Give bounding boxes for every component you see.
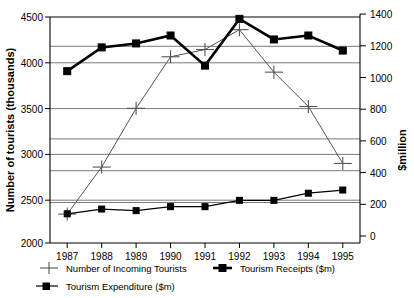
legend-label: Tourism Expenditure ($m) bbox=[66, 281, 175, 292]
legend-label: Tourism Receipts ($m) bbox=[240, 263, 335, 274]
legend-label: Number of Incoming Tourists bbox=[66, 263, 187, 274]
x-tick-label: 1991 bbox=[194, 251, 217, 262]
x-tick-label: 1992 bbox=[228, 251, 251, 262]
y-tick-label: 4500 bbox=[21, 12, 44, 23]
y2-tick-label: 600 bbox=[370, 136, 387, 147]
x-tick-label: 1989 bbox=[125, 251, 148, 262]
legend-item-incoming-tourists: Number of Incoming Tourists bbox=[40, 262, 187, 274]
x-tick-label: 1993 bbox=[263, 251, 286, 262]
legend-item-tourism-expenditure: Tourism Expenditure ($m) bbox=[36, 281, 175, 292]
y2-tick-label: 400 bbox=[370, 168, 387, 179]
y-tick-label: 3000 bbox=[21, 149, 44, 160]
chart-container: 4500 4000 3500 3000 2500 2000 Number of … bbox=[0, 0, 414, 298]
y2-axis-title: $million bbox=[396, 129, 408, 171]
x-axis: 198719881989199019911992199319941995 bbox=[56, 243, 354, 262]
y2-tick-label: 1400 bbox=[370, 9, 393, 20]
x-tick-label: 1994 bbox=[297, 251, 320, 262]
y-axis-title: Number of tourists (thousands) bbox=[4, 47, 16, 212]
legend-item-tourism-receipts: Tourism Receipts ($m) bbox=[213, 263, 335, 274]
y2-tick-label: 200 bbox=[370, 199, 387, 210]
y-tick-label: 2000 bbox=[21, 238, 44, 249]
y2-tick-label: 1200 bbox=[370, 41, 393, 52]
x-tick-label: 1987 bbox=[56, 251, 79, 262]
y-tick-label: 2500 bbox=[21, 195, 44, 206]
y2-tick-label: 1000 bbox=[370, 73, 393, 84]
y-tick-label: 4000 bbox=[21, 58, 44, 69]
x-tick-label: 1990 bbox=[159, 251, 182, 262]
y2-tick-label: 800 bbox=[370, 104, 387, 115]
y-tick-label: 3500 bbox=[21, 104, 44, 115]
line-chart: 4500 4000 3500 3000 2500 2000 Number of … bbox=[0, 0, 414, 298]
y2-tick-label: 0 bbox=[370, 231, 376, 242]
chart-legend: Number of Incoming Tourists Tourism Rece… bbox=[36, 262, 335, 292]
x-tick-label: 1995 bbox=[332, 251, 355, 262]
left-axis: 4500 4000 3500 3000 2500 2000 bbox=[21, 12, 50, 249]
right-axis: 1400 1200 1000 800 600 400 200 0 bbox=[360, 9, 393, 242]
x-tick-label: 1988 bbox=[91, 251, 114, 262]
